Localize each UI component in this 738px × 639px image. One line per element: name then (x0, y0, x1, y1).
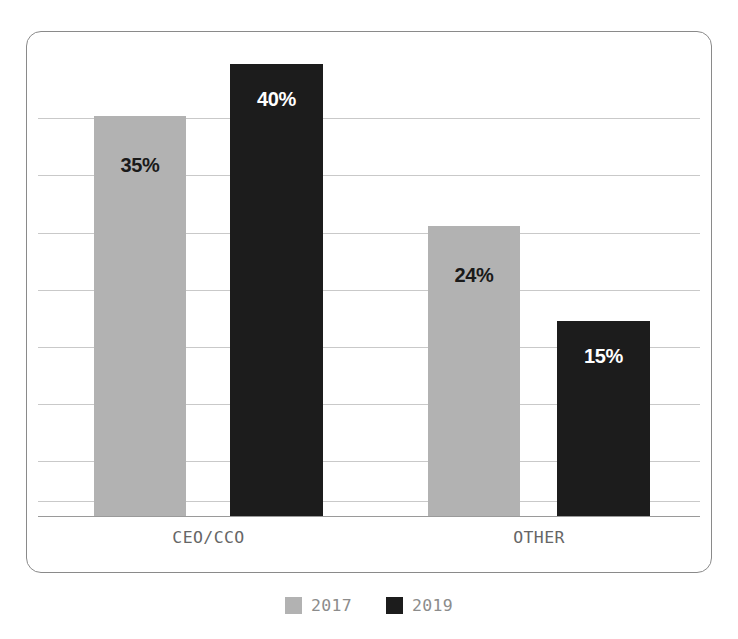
legend-label-2019: 2019 (412, 596, 453, 615)
chart-legend: 2017 2019 (0, 596, 738, 615)
bar-value-label: 24% (428, 264, 520, 287)
legend-item-2019[interactable]: 2019 (386, 596, 453, 615)
legend-label-2017: 2017 (311, 596, 352, 615)
bar-2017-ceo-cco[interactable]: 35% (94, 116, 186, 516)
plot-area: 35% 40% 24% 15% (38, 46, 700, 516)
legend-swatch-icon (285, 597, 302, 614)
bar-2017-other[interactable]: 24% (428, 226, 520, 516)
category-label-ceo-cco: CEO/CCO (94, 528, 323, 547)
bar-value-label: 15% (557, 345, 650, 368)
bars-layer: 35% 40% 24% 15% (38, 46, 700, 516)
category-label-other: OTHER (428, 528, 650, 547)
bar-chart: 35% 40% 24% 15% CEO/CCO OTHER 2017 2019 (0, 0, 738, 639)
bar-2019-ceo-cco[interactable]: 40% (230, 64, 323, 516)
bar-value-label: 40% (230, 88, 323, 111)
category-axis-labels: CEO/CCO OTHER (38, 528, 700, 558)
bar-2019-other[interactable]: 15% (557, 321, 650, 516)
bar-value-label: 35% (94, 154, 186, 177)
legend-item-2017[interactable]: 2017 (285, 596, 352, 615)
legend-swatch-icon (386, 597, 403, 614)
